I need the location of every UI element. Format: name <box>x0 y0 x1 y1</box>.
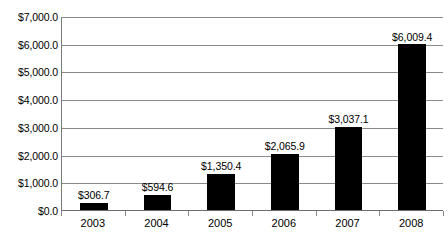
x-axis-tick <box>252 211 253 216</box>
x-axis-tick <box>125 211 126 216</box>
x-axis-tick <box>316 211 317 216</box>
bar <box>335 127 363 211</box>
bar <box>271 154 299 211</box>
bar-value-label: $306.7 <box>78 189 110 201</box>
bar-value-label: $1,350.4 <box>201 160 241 172</box>
bar-value-label: $3,037.1 <box>328 113 368 125</box>
y-axis-tick-label: $1,000.0 <box>18 177 58 189</box>
x-axis-category-label: 2003 <box>81 217 105 229</box>
x-axis-category-label: 2004 <box>144 217 168 229</box>
bar-value-label: $2,065.9 <box>265 140 305 152</box>
y-axis-tick-label: $4,000.0 <box>18 94 58 106</box>
y-axis-tick-label: $7,000.0 <box>18 11 58 23</box>
x-axis-category-label: 2008 <box>399 217 423 229</box>
x-axis-tick <box>443 211 444 216</box>
y-axis-tick-label: $0.0 <box>38 205 58 217</box>
x-axis-category-label: 2007 <box>335 217 359 229</box>
plot-area: $306.7$594.6$1,350.4$2,065.9$3,037.1$6,0… <box>61 17 443 211</box>
x-axis-category-label: 2006 <box>272 217 296 229</box>
bar-value-label: $6,009.4 <box>392 31 432 43</box>
x-axis-tick <box>61 211 62 216</box>
bar <box>207 174 235 211</box>
y-axis-tick-label: $3,000.0 <box>18 122 58 134</box>
bar-series: $306.7$594.6$1,350.4$2,065.9$3,037.1$6,0… <box>62 17 443 211</box>
y-axis-tick-label: $6,000.0 <box>18 39 58 51</box>
x-axis-category-label: 2005 <box>208 217 232 229</box>
y-axis-tick-label: $5,000.0 <box>18 66 58 78</box>
x-axis-tick <box>188 211 189 216</box>
bar-chart: $0.0$1,000.0$2,000.0$3,000.0$4,000.0$5,0… <box>0 0 448 243</box>
x-axis-tick <box>379 211 380 216</box>
bar <box>398 44 426 211</box>
y-axis-labels: $0.0$1,000.0$2,000.0$3,000.0$4,000.0$5,0… <box>0 0 58 243</box>
y-axis-tick-label: $2,000.0 <box>18 150 58 162</box>
bar <box>144 195 172 211</box>
bar-value-label: $594.6 <box>142 181 174 193</box>
x-axis: 200320042005200620072008 <box>61 211 443 243</box>
